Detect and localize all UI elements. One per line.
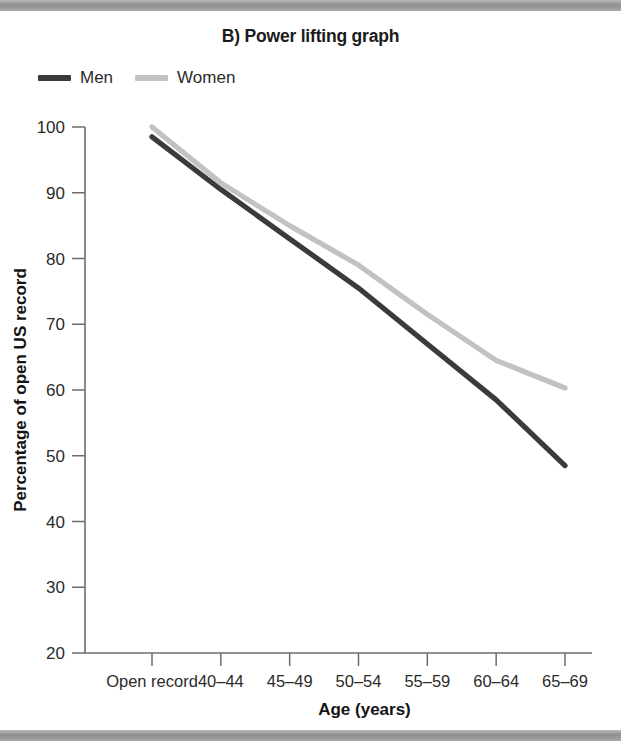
y-axis-ticks: 1009080706050403020 xyxy=(37,118,85,663)
y-tick-label: 70 xyxy=(46,315,65,334)
x-tick-label: 40–44 xyxy=(198,672,244,690)
y-tick-label: 40 xyxy=(46,513,65,532)
x-tick-label: 55–59 xyxy=(404,672,450,690)
y-tick-label: 100 xyxy=(37,118,65,137)
y-tick-label: 60 xyxy=(46,381,65,400)
figure-panel: B) Power lifting graph Men Women 1009080… xyxy=(0,0,621,741)
plot-area: 1009080706050403020 Open record40–4445–4… xyxy=(0,0,621,741)
x-tick-label: 50–54 xyxy=(336,672,382,690)
y-tick-label: 30 xyxy=(46,578,65,597)
x-axis-title: Age (years) xyxy=(318,700,411,719)
line-chart-svg: 1009080706050403020 Open record40–4445–4… xyxy=(0,0,621,741)
x-tick-label: 60–64 xyxy=(473,672,519,690)
y-tick-label: 80 xyxy=(46,250,65,269)
data-series-group xyxy=(152,127,565,466)
bottom-divider-band xyxy=(0,730,621,741)
y-tick-label: 90 xyxy=(46,184,65,203)
x-tick-label: Open record xyxy=(106,672,198,690)
x-axis-ticks: Open record40–4445–4950–5455–5960–6465–6… xyxy=(106,653,588,690)
x-tick-label: 45–49 xyxy=(267,672,313,690)
axis-lines xyxy=(85,127,592,653)
series-line-men xyxy=(152,137,565,466)
x-tick-label: 65–69 xyxy=(542,672,588,690)
y-tick-label: 50 xyxy=(46,447,65,466)
y-tick-label: 20 xyxy=(46,644,65,663)
y-axis-title: Percentage of open US record xyxy=(11,268,30,512)
series-line-women xyxy=(152,127,565,388)
